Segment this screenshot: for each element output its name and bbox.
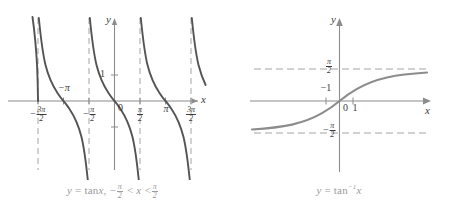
- fraction-pi-2: π 2: [137, 106, 143, 124]
- caption-comma: ,: [104, 184, 107, 196]
- tangent-y-axis-label: y: [106, 14, 111, 25]
- tangent-xtick-3pi-over-2: 3π 2: [186, 106, 196, 124]
- tangent-y-axis: [112, 18, 117, 170]
- caption-less-than-1: <: [127, 184, 133, 196]
- fraction-denominator: 2: [117, 192, 123, 200]
- caption-function-name: tan: [84, 184, 98, 196]
- fraction-denominator: 2: [326, 67, 332, 75]
- fraction-pi-2: π 2: [326, 58, 332, 76]
- tangent-curve-group: [33, 17, 206, 180]
- tangent-xtick-pi-over-2: π 2: [137, 106, 143, 124]
- caption-equals: =: [324, 184, 330, 196]
- caption-fraction-pi-2-upper: π 2: [152, 183, 158, 201]
- caption-y: y: [67, 184, 72, 196]
- arctangent-graph-panel: y x π 2 − π 2 −1 0 1 y = tan−1x: [226, 0, 452, 207]
- tangent-branch-left-partial: [33, 17, 39, 101]
- tangent-caption: y = tanx, − π 2 < x < π 2: [0, 183, 226, 201]
- fraction-denominator: 2: [186, 115, 196, 123]
- fraction-pi-2: π 2: [329, 122, 335, 140]
- arctangent-xtick-1: 1: [353, 103, 358, 113]
- figure-root: y x 1 −π − 3π 2 − π 2 0 π 2: [0, 0, 452, 207]
- fraction-denominator: 2: [137, 115, 143, 123]
- tick-minus-sign: −: [323, 124, 330, 135]
- fraction-pi-2: π 2: [89, 106, 95, 124]
- tangent-branch-right-partial: [192, 18, 206, 85]
- fraction-denominator: 2: [329, 131, 335, 139]
- tangent-graph-panel: y x 1 −π − 3π 2 − π 2 0 π 2: [0, 0, 226, 207]
- neg-pi-symbol: π: [65, 82, 70, 93]
- tick-minus-sign: −: [83, 108, 90, 119]
- fraction-denominator: 2: [89, 115, 95, 123]
- caption-variable: x: [356, 184, 361, 196]
- arctangent-caption: y = tan−1x: [226, 183, 452, 196]
- tangent-x-axis-label: x: [201, 94, 206, 105]
- caption-equals: =: [75, 184, 81, 196]
- arctangent-ytick-neg-pi-over-2: − π 2: [323, 122, 336, 140]
- arctangent-xtick-neg-1: −1: [321, 83, 332, 93]
- arctangent-ytick-pi-over-2: π 2: [326, 58, 332, 76]
- arctangent-xtick-zero: 0: [343, 103, 348, 113]
- fraction-3pi-2: 3π 2: [36, 106, 46, 124]
- neg-pi-minus: −: [58, 82, 65, 93]
- caption-variable-2: x: [136, 184, 141, 196]
- tangent-plot-svg: [0, 0, 226, 180]
- caption-minus: −: [109, 184, 115, 196]
- tangent-xtick-neg-3pi-over-2: − 3π 2: [30, 106, 47, 124]
- arctangent-x-axis-label: x: [425, 105, 430, 116]
- fraction-denominator: 2: [36, 115, 46, 123]
- caption-fraction-pi-2-lower: π 2: [117, 183, 123, 201]
- tangent-ytick-label-1: 1: [100, 69, 105, 79]
- arctangent-y-axis-label: y: [331, 14, 336, 25]
- tangent-xtick-zero: 0: [118, 103, 123, 113]
- caption-y: y: [316, 184, 321, 196]
- tick-minus-sign: −: [30, 108, 37, 119]
- caption-less-than-2: <: [144, 184, 150, 196]
- caption-function-name: tan: [334, 184, 348, 196]
- tangent-xtick-pi: π: [163, 104, 168, 114]
- tangent-xtick-neg-pi-over-2: − π 2: [83, 106, 96, 124]
- arctangent-y-axis: [336, 18, 343, 172]
- fraction-denominator: 2: [152, 192, 158, 200]
- fraction-3pi-2: 3π 2: [186, 106, 196, 124]
- arctangent-plot-svg: [226, 0, 452, 180]
- tangent-annotation-neg-pi: −π: [58, 83, 70, 93]
- tangent-x-axis: [8, 98, 198, 103]
